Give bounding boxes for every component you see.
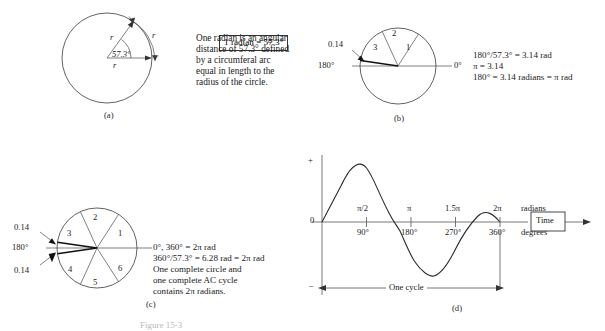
radian-tick-label-1: π/2	[357, 203, 368, 213]
origin-label: 0	[310, 215, 314, 225]
time-box-label: Time	[536, 215, 554, 225]
radian-tick-label-4: 2π	[493, 203, 502, 213]
time-axis-arrowhead	[583, 219, 591, 225]
one-cycle-label: One cycle	[386, 282, 427, 292]
panel-letter-d: (d)	[452, 303, 462, 313]
positive-sign-label: +	[308, 155, 313, 165]
degree-tick-label-4: 360°	[489, 227, 505, 237]
radians-axis-label: radians	[521, 203, 546, 213]
radian-tick-label-2: π	[407, 203, 411, 213]
degree-tick-label-3: 270°	[445, 227, 461, 237]
radian-tick-label-3: 1.5π	[445, 203, 460, 213]
degrees-axis-label: degrees	[521, 227, 547, 237]
figure-caption: Figure 15-3	[140, 320, 182, 331]
degree-tick-label-2: 180°	[401, 227, 417, 237]
degree-tick-label-1: 90°	[357, 227, 369, 237]
negative-sign-label: –	[309, 280, 313, 290]
